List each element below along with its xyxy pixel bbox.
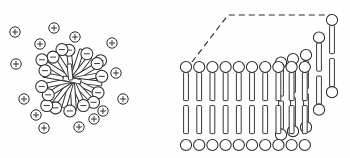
- bilayer-column: [260, 61, 271, 150]
- figure-root: [0, 0, 350, 158]
- amphiphile-head: [91, 58, 103, 70]
- amphiphile-head: [77, 100, 89, 112]
- counterion: [31, 110, 41, 120]
- bilayer-column: [313, 32, 324, 115]
- counterion: [49, 23, 59, 33]
- counterion: [11, 59, 21, 69]
- counterion: [10, 27, 20, 37]
- amphiphile-head: [39, 65, 51, 77]
- bilayer-column: [326, 14, 337, 97]
- bilayer-front-columns: [180, 61, 310, 150]
- counterion: [107, 38, 117, 48]
- amphiphile-head: [96, 70, 108, 82]
- counterion: [19, 94, 29, 104]
- counterion: [118, 94, 128, 104]
- counterion: [39, 123, 49, 133]
- counterion: [98, 106, 108, 116]
- bilayer-column: [220, 61, 231, 150]
- bilayer-column: [246, 61, 257, 150]
- counterion: [70, 32, 80, 42]
- counterion: [35, 39, 45, 49]
- bilayer-column: [194, 61, 205, 150]
- amphiphile-head: [81, 48, 93, 60]
- amphiphile-head: [41, 100, 53, 112]
- micelle-panel: [10, 23, 128, 133]
- bilayer-column: [233, 61, 244, 150]
- amphiphile-head: [47, 51, 59, 63]
- bilayer-column: [180, 61, 191, 150]
- amphiphile-head: [36, 54, 48, 66]
- counterion: [74, 122, 84, 132]
- figure-canvas: [0, 0, 350, 158]
- bilayer-column: [207, 61, 218, 150]
- bilayer-panel: [180, 14, 337, 150]
- amphiphile-head: [36, 81, 48, 93]
- counterion: [111, 68, 121, 78]
- counterion: [89, 114, 99, 124]
- amphiphile-head: [64, 105, 76, 117]
